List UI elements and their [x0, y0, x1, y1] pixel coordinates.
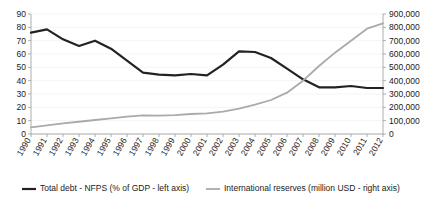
category-label-2000: 2000	[175, 136, 193, 158]
category-label-2002: 2002	[207, 136, 225, 158]
category-label-1990: 1990	[15, 136, 33, 158]
category-label-2008: 2008	[303, 136, 321, 158]
left-axis-ticks: 0102030405060708090	[17, 9, 31, 139]
legend-label-2: International reserves (million USD - ri…	[224, 183, 400, 193]
category-label-1997: 1997	[127, 136, 145, 158]
right-axis-tick-label: 0	[389, 129, 394, 139]
category-label-2011: 2011	[351, 136, 369, 157]
plot-frame	[31, 14, 383, 134]
left-axis-tick-label: 70	[17, 36, 27, 46]
chart-figure: 0102030405060708090 0100,000200,000300,0…	[0, 0, 438, 202]
left-axis-tick-label: 10	[17, 116, 27, 126]
chart-legend: Total debt - NFPS (% of GDP - left axis)…	[22, 183, 400, 193]
gridlines	[31, 14, 383, 134]
category-label-2007: 2007	[287, 136, 305, 158]
category-label-2001: 2001	[191, 136, 209, 158]
right-axis-tick-label: 400,000	[389, 76, 420, 86]
category-label-1993: 1993	[63, 136, 81, 158]
category-label-2003: 2003	[223, 136, 241, 158]
category-label-2004: 2004	[239, 136, 257, 158]
right-axis-tick-label: 300,000	[389, 89, 420, 99]
series-line-1	[31, 29, 383, 88]
right-axis-tick-label: 100,000	[389, 116, 420, 126]
category-label-1992: 1992	[47, 136, 65, 158]
category-label-1994: 1994	[79, 136, 97, 158]
left-axis-tick-label: 30	[17, 89, 27, 99]
category-label-1998: 1998	[143, 136, 161, 158]
right-axis-tick-label: 800,000	[389, 22, 420, 32]
category-label-1999: 1999	[159, 136, 177, 158]
right-axis-tick-label: 900,000	[389, 9, 420, 19]
category-axis-labels: 1990199119921993199419951996199719981999…	[15, 134, 385, 157]
right-axis-tick-label: 500,000	[389, 62, 420, 72]
right-axis-ticks: 0100,000200,000300,000400,000500,000600,…	[383, 9, 420, 139]
left-axis-tick-label: 90	[17, 9, 27, 19]
left-axis-tick-label: 60	[17, 49, 27, 59]
category-label-1995: 1995	[95, 136, 113, 158]
right-axis-tick-label: 600,000	[389, 49, 420, 59]
right-axis-tick-label: 700,000	[389, 36, 420, 46]
category-label-2012: 2012	[367, 136, 385, 158]
right-axis-tick-label: 200,000	[389, 102, 420, 112]
category-label-1991: 1991	[31, 136, 49, 158]
category-label-2005: 2005	[255, 136, 273, 158]
left-axis-tick-label: 40	[17, 76, 27, 86]
category-label-2010: 2010	[335, 136, 353, 158]
legend-label-1: Total debt - NFPS (% of GDP - left axis)	[40, 183, 189, 193]
category-label-2006: 2006	[271, 136, 289, 158]
category-label-2009: 2009	[319, 136, 337, 158]
left-axis-tick-label: 50	[17, 62, 27, 72]
left-axis-tick-label: 80	[17, 22, 27, 32]
data-series-group	[31, 23, 383, 127]
line-chart: 0102030405060708090 0100,000200,000300,0…	[0, 0, 438, 202]
left-axis-tick-label: 20	[17, 102, 27, 112]
category-label-1996: 1996	[111, 136, 129, 158]
